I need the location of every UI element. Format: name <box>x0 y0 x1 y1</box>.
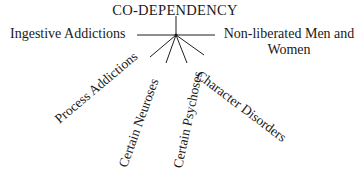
codependency-diagram: CO-DEPENDENCY Ingestive Addictions Non-l… <box>0 0 362 176</box>
node-label-ingestive-addictions: Ingestive Addictions <box>10 26 126 42</box>
node-label-right-line-2: Women <box>219 42 359 58</box>
diagram-title-text: CO-DEPENDENCY <box>112 2 238 18</box>
node-label-right-line-1: Non-liberated Men and <box>219 26 359 42</box>
hub-node <box>174 33 177 36</box>
node-label-non-liberated-men-and-women: Non-liberated Men and Women <box>219 26 359 57</box>
diagram-title: CO-DEPENDENCY <box>0 2 362 18</box>
